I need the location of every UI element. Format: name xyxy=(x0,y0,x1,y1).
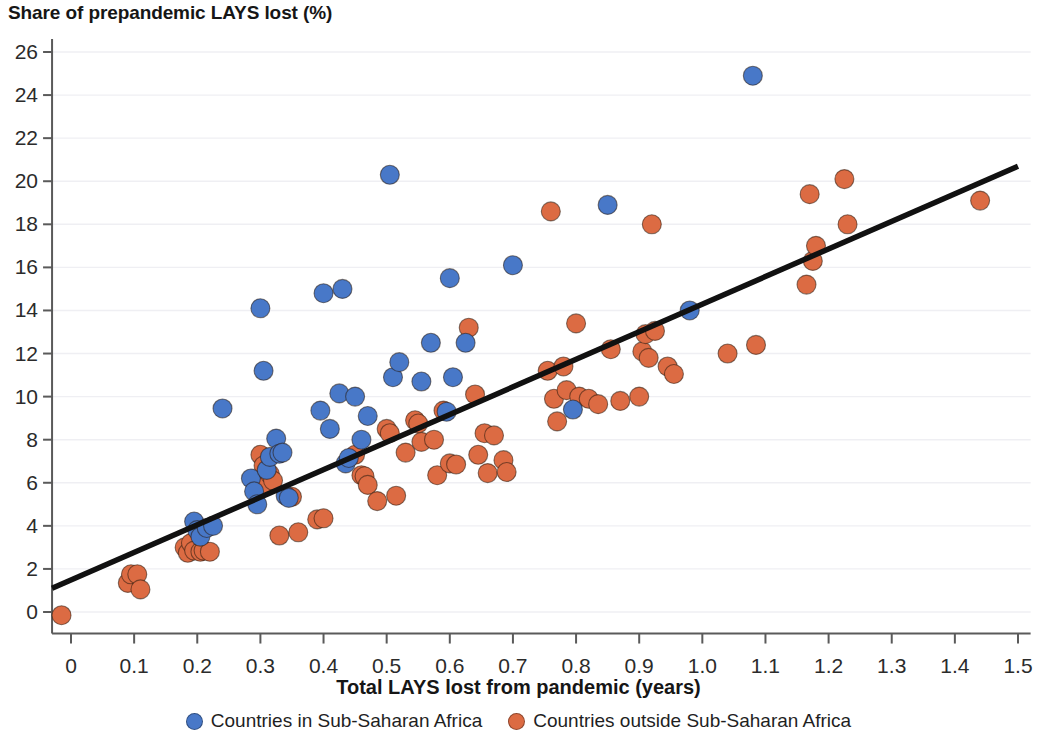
y-tick-label: 12 xyxy=(10,342,38,366)
x-tick-label: 1.3 xyxy=(877,654,906,678)
scatter-point xyxy=(664,365,683,384)
x-axis-title: Total LAYS lost from pandemic (years) xyxy=(0,676,1037,699)
scatter-point xyxy=(289,523,308,542)
x-tick-label: 1.1 xyxy=(751,654,780,678)
scatter-point xyxy=(746,335,765,354)
x-tick-label: 0.6 xyxy=(435,654,464,678)
scatter-point xyxy=(346,387,365,406)
y-tick-label: 22 xyxy=(10,126,38,150)
legend-swatch-blue-circle-icon xyxy=(186,713,203,730)
scatter-point xyxy=(213,399,232,418)
legend-entry-sub-saharan-africa: Countries in Sub-Saharan Africa xyxy=(186,710,482,732)
x-tick-label: 0.8 xyxy=(561,654,590,678)
trend-line xyxy=(52,166,1018,588)
scatter-point xyxy=(333,279,352,298)
scatter-point xyxy=(797,275,816,294)
scatter-point xyxy=(320,419,339,438)
y-tick-label: 6 xyxy=(10,471,38,495)
scatter-point xyxy=(314,284,333,303)
x-tick-label: 0.4 xyxy=(309,654,338,678)
scatter-point xyxy=(421,333,440,352)
scatter-point xyxy=(440,269,459,288)
y-tick-label: 4 xyxy=(10,514,38,538)
y-tick-label: 2 xyxy=(10,557,38,581)
x-tick-label: 0.5 xyxy=(372,654,401,678)
y-tick-label: 18 xyxy=(10,212,38,236)
scatter-point xyxy=(456,333,475,352)
scatter-point xyxy=(447,455,466,474)
scatter-point xyxy=(497,463,516,482)
scatter-point xyxy=(412,372,431,391)
scatter-point xyxy=(548,412,567,431)
scatter-point xyxy=(270,526,289,545)
scatter-point xyxy=(469,445,488,464)
scatter-point xyxy=(279,488,298,507)
scatter-point xyxy=(358,407,377,426)
y-tick-label: 14 xyxy=(10,298,38,322)
y-tick-label: 24 xyxy=(10,83,38,107)
scatter-plot-svg xyxy=(0,0,1037,742)
chart-figure: Share of prepandemic LAYS lost (%) 02468… xyxy=(0,0,1037,742)
scatter-point xyxy=(425,430,444,449)
scatter-point xyxy=(352,430,371,449)
legend-label-outside-sub-saharan-africa: Countries outside Sub-Saharan Africa xyxy=(533,710,851,732)
x-tick-label: 0.1 xyxy=(120,654,149,678)
scatter-point xyxy=(743,66,762,85)
x-tick-label: 0.2 xyxy=(183,654,212,678)
x-tick-label: 0.7 xyxy=(498,654,527,678)
scatter-point xyxy=(368,492,387,511)
legend-swatch-orange-circle-icon xyxy=(508,713,525,730)
legend-entry-outside-sub-saharan-africa: Countries outside Sub-Saharan Africa xyxy=(508,710,851,732)
scatter-point xyxy=(971,191,990,210)
x-tick-label: 1.4 xyxy=(940,654,969,678)
x-tick-label: 0.3 xyxy=(246,654,275,678)
x-tick-label: 1.5 xyxy=(1003,654,1032,678)
scatter-point xyxy=(380,165,399,184)
y-tick-label: 0 xyxy=(10,600,38,624)
x-tick-label: 0 xyxy=(65,654,77,678)
scatter-point xyxy=(567,314,586,333)
scatter-point xyxy=(503,256,522,275)
scatter-point xyxy=(131,580,150,599)
scatter-point xyxy=(589,395,608,414)
x-tick-label: 0.9 xyxy=(625,654,654,678)
y-tick-label: 20 xyxy=(10,169,38,193)
scatter-point xyxy=(387,486,406,505)
y-tick-label: 8 xyxy=(10,428,38,452)
chart-legend: Countries in Sub-Saharan Africa Countrie… xyxy=(0,710,1037,732)
trend-line-segment xyxy=(52,166,1018,588)
scatter-point xyxy=(484,426,503,445)
y-tick-label: 26 xyxy=(10,40,38,64)
scatter-point xyxy=(273,443,292,462)
x-tick-label: 1.0 xyxy=(688,654,717,678)
y-tick-label: 16 xyxy=(10,255,38,279)
scatter-point xyxy=(611,391,630,410)
scatter-point xyxy=(718,344,737,363)
scatter-point xyxy=(630,387,649,406)
x-tick-label: 1.2 xyxy=(814,654,843,678)
plot-area: 02468101214161820222426 00.10.20.30.40.5… xyxy=(0,0,1037,742)
scatter-point xyxy=(251,299,270,318)
scatter-point xyxy=(598,195,617,214)
scatter-point xyxy=(541,202,560,221)
legend-label-sub-saharan-africa: Countries in Sub-Saharan Africa xyxy=(211,710,482,732)
scatter-point xyxy=(52,606,71,625)
scatter-point xyxy=(835,170,854,189)
scatter-point xyxy=(639,348,658,367)
scatter-point xyxy=(563,400,582,419)
scatter-point xyxy=(311,401,330,420)
scatter-point xyxy=(390,353,409,372)
scatter-point xyxy=(254,361,273,380)
y-tick-label: 10 xyxy=(10,385,38,409)
scatter-point xyxy=(800,185,819,204)
scatter-point xyxy=(443,368,462,387)
scatter-point xyxy=(838,215,857,234)
scatter-point xyxy=(642,215,661,234)
scatter-point xyxy=(478,464,497,483)
scatter-point xyxy=(314,509,333,528)
